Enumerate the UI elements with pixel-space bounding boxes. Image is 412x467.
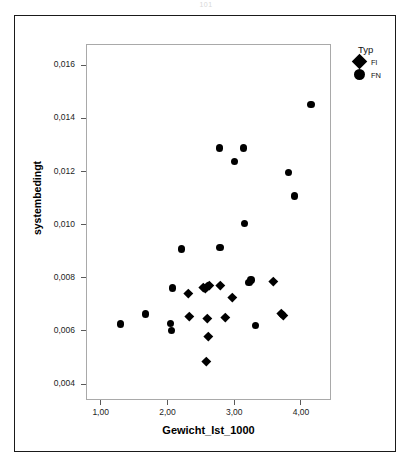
y-tick-mark — [81, 277, 86, 278]
plot-frame — [86, 44, 331, 400]
y-tick-label: 0,004 — [54, 379, 75, 388]
y-tick-label: 0,008 — [54, 273, 75, 282]
legend-label: Fl — [371, 58, 377, 67]
data-point-fn — [241, 220, 248, 227]
x-tick-mark — [234, 400, 235, 405]
x-tick-label: 1,00 — [81, 408, 121, 417]
x-axis-title: Gewicht_Ist_1000 — [86, 424, 331, 436]
legend-label: FN — [371, 71, 381, 80]
data-point-fn — [142, 310, 149, 317]
y-tick-label: 0,012 — [54, 167, 75, 176]
x-tick-label: 4,00 — [281, 408, 321, 417]
legend-entry-fn: FN — [352, 69, 404, 82]
x-tick-mark — [167, 400, 168, 405]
scatter-chart: 0,0040,0060,0080,0100,0120,0140,016 1,00… — [0, 0, 412, 467]
y-tick-mark — [81, 171, 86, 172]
y-tick-mark — [81, 65, 86, 66]
y-tick-mark — [81, 224, 86, 225]
legend-entries: FlFN — [352, 56, 404, 82]
data-point-fn — [285, 169, 292, 176]
x-tick-mark — [100, 400, 101, 405]
y-tick-label: 0,014 — [54, 113, 75, 122]
data-point-fn — [291, 192, 298, 199]
data-point-fn — [216, 144, 223, 151]
data-point-fn — [231, 158, 238, 165]
data-point-fn — [117, 320, 124, 327]
x-tick-mark — [300, 400, 301, 405]
y-tick-label: 0,010 — [54, 220, 75, 229]
data-point-fn — [245, 279, 252, 286]
y-tick-label: 0,006 — [54, 326, 75, 335]
data-point-fn — [240, 144, 247, 151]
legend-circle-icon — [354, 69, 365, 80]
data-point-fn — [216, 244, 223, 251]
y-tick-mark — [81, 330, 86, 331]
y-tick-mark — [81, 118, 86, 119]
legend-diamond-icon — [352, 54, 368, 70]
legend-title: Typ — [358, 44, 404, 55]
data-point-fn — [307, 101, 314, 108]
data-point-fn — [178, 245, 185, 252]
y-axis-title: systembedingt — [31, 128, 43, 268]
legend: Typ FlFN — [352, 44, 404, 82]
y-tick-label: 0,016 — [54, 60, 75, 69]
x-tick-label: 2,00 — [147, 408, 187, 417]
y-tick-mark — [81, 384, 86, 385]
x-tick-label: 3,00 — [214, 408, 254, 417]
legend-entry-fl: Fl — [352, 56, 404, 69]
